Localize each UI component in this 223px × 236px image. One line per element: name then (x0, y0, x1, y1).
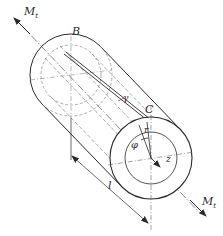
torque-label-top: Mt (24, 6, 38, 20)
radius-label: r (144, 126, 148, 135)
diagram-drawing (0, 0, 223, 236)
axis-z-label: z (166, 155, 171, 164)
generator-lines (64, 52, 150, 120)
shear-angle-label: γ (123, 94, 128, 103)
back-end-crosshair (30, 36, 112, 118)
twist-angle-label: φ (131, 140, 138, 150)
point-b-label: B (72, 26, 80, 37)
length-label: l (108, 180, 112, 191)
torque-label-bottom: Mt (202, 196, 216, 210)
torsion-diagram: Mt B γ C r φ z Mt l (0, 0, 223, 236)
point-c-label: C (145, 104, 153, 115)
back-end-outer-arc (30, 34, 100, 104)
